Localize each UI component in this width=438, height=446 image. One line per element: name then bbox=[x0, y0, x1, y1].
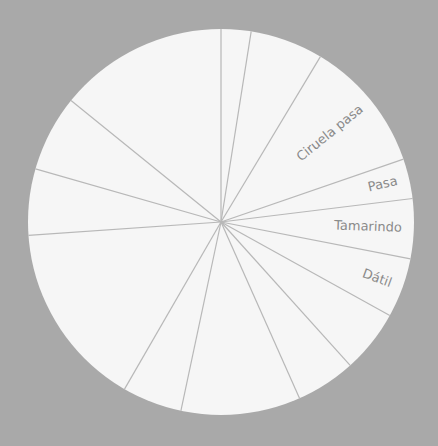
slice-label: Tamarindo bbox=[333, 217, 402, 234]
pie-chart: Ciruela pasaPasaTamarindoDátil bbox=[0, 0, 438, 446]
